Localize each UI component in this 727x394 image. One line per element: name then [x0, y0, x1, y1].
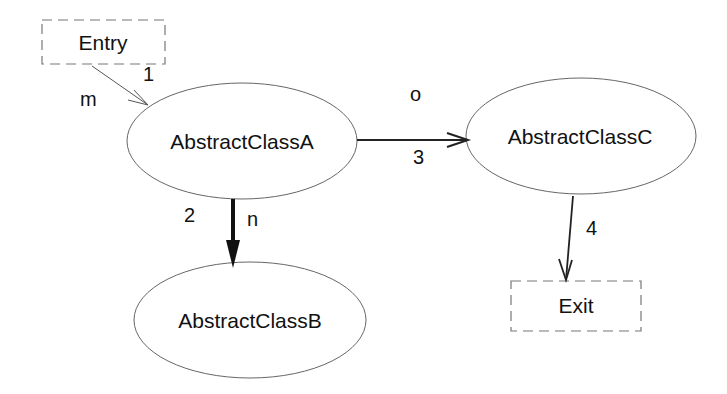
edge-3-number: 3 [413, 146, 424, 168]
node-entry[interactable]: Entry [42, 20, 165, 64]
edge-1-number: 1 [143, 63, 154, 85]
edge-2-number: 2 [184, 204, 195, 226]
arrowhead-icon [559, 259, 572, 280]
diagram-canvas: Entry AbstractClassA AbstractClassB Abst… [0, 0, 727, 394]
edge-3-label: o [410, 83, 421, 105]
edge-class-c-to-exit[interactable]: 4 [559, 196, 597, 280]
node-abstract-class-a[interactable]: AbstractClassA [127, 83, 357, 199]
class-c-label: AbstractClassC [508, 125, 653, 148]
edge-1-label: m [80, 88, 97, 110]
arrowhead-icon [226, 240, 240, 268]
entry-label: Entry [78, 31, 128, 54]
exit-label: Exit [558, 294, 593, 317]
edge-entry-to-class-a[interactable]: 1 m [80, 63, 154, 110]
edge-class-a-to-class-b[interactable]: 2 n [184, 199, 258, 268]
edge-2-label: n [247, 208, 258, 230]
edge-class-a-to-class-c[interactable]: o 3 [357, 83, 468, 168]
edge-1-line [92, 66, 148, 105]
class-b-label: AbstractClassB [178, 309, 322, 332]
node-exit[interactable]: Exit [511, 281, 641, 331]
node-abstract-class-b[interactable]: AbstractClassB [134, 262, 366, 378]
node-abstract-class-c[interactable]: AbstractClassC [466, 78, 696, 194]
class-a-label: AbstractClassA [170, 130, 314, 153]
edge-4-number: 4 [586, 217, 597, 239]
